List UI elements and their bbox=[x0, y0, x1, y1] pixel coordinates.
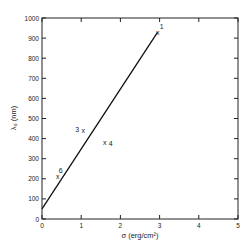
x-tick-label: 3 bbox=[158, 222, 162, 229]
data-point-label: 4 bbox=[109, 140, 113, 147]
x-axis-label: σ (erg/cm²) bbox=[121, 231, 159, 240]
data-point-marker: x bbox=[103, 139, 107, 146]
plot-frame bbox=[42, 18, 238, 219]
data-point-marker: x bbox=[81, 127, 85, 134]
chart: 01234501002003004005006007008009001000 x… bbox=[0, 0, 252, 245]
y-tick-label: 100 bbox=[28, 195, 39, 202]
ticks: 01234501002003004005006007008009001000 bbox=[25, 15, 241, 230]
y-tick-label: 200 bbox=[28, 175, 39, 182]
y-tick-label: 300 bbox=[28, 155, 39, 162]
x-tick-label: 4 bbox=[197, 222, 201, 229]
data-point-label: 1 bbox=[160, 23, 164, 30]
x-tick-label: 1 bbox=[79, 222, 83, 229]
fit-line bbox=[42, 32, 158, 209]
y-tick-label: 500 bbox=[28, 115, 39, 122]
data-point-label: 3 bbox=[75, 126, 79, 133]
y-tick-label: 600 bbox=[28, 95, 39, 102]
y-tick-label: 900 bbox=[28, 35, 39, 42]
y-axis-label: λ₀ (nm) bbox=[9, 105, 18, 130]
y-tick-label: 1000 bbox=[25, 15, 40, 22]
y-tick-label: 400 bbox=[28, 135, 39, 142]
x-tick-label: 5 bbox=[236, 222, 240, 229]
data-point-label: 6 bbox=[59, 167, 63, 174]
y-tick-label: 700 bbox=[28, 75, 39, 82]
y-tick-label: 800 bbox=[28, 55, 39, 62]
data-point-marker: x bbox=[56, 173, 60, 180]
y-tick-label: 0 bbox=[35, 216, 39, 223]
x-tick-label: 0 bbox=[40, 222, 44, 229]
x-tick-label: 2 bbox=[119, 222, 123, 229]
